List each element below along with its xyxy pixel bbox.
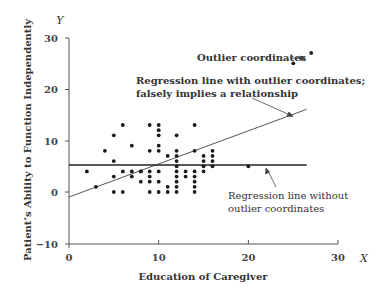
regression-without-outliers-annotation-line1: Regression line without xyxy=(228,190,348,201)
regression-line-with-outliers xyxy=(69,109,307,197)
data-point xyxy=(202,164,206,168)
x-tick-labels: 0 10 20 30 xyxy=(66,252,345,263)
x-tick-0: 0 xyxy=(66,252,73,263)
regression-with-outliers-annotation-line1: Regression line with outlier coordinates… xyxy=(136,75,365,86)
data-point xyxy=(184,175,188,179)
data-point xyxy=(193,180,197,184)
data-point xyxy=(157,133,161,137)
data-point xyxy=(193,149,197,153)
data-point xyxy=(193,170,197,174)
data-point xyxy=(148,175,152,179)
data-point xyxy=(175,175,179,179)
scatter-chart: 30 20 10 0 −10 0 10 20 30 Y X Education … xyxy=(0,0,386,292)
data-point xyxy=(148,190,152,194)
data-point xyxy=(157,128,161,132)
data-point xyxy=(202,154,206,158)
y-tick-10: 10 xyxy=(44,136,58,147)
x-tick-20: 20 xyxy=(241,252,255,263)
data-point xyxy=(157,149,161,153)
data-point xyxy=(112,133,116,137)
data-point xyxy=(175,164,179,168)
data-point xyxy=(139,180,143,184)
data-point xyxy=(202,170,206,174)
data-point xyxy=(211,159,215,163)
data-point xyxy=(148,123,152,127)
data-point xyxy=(175,154,179,158)
data-points xyxy=(85,123,250,194)
data-point xyxy=(175,133,179,137)
data-point xyxy=(193,175,197,179)
y-tick-30: 30 xyxy=(44,33,58,44)
data-point xyxy=(94,185,98,189)
data-point xyxy=(130,170,134,174)
data-point xyxy=(193,185,197,189)
data-point xyxy=(193,123,197,127)
data-point xyxy=(121,190,125,194)
data-point xyxy=(175,170,179,174)
data-point xyxy=(175,149,179,153)
data-point xyxy=(175,185,179,189)
data-point xyxy=(166,185,170,189)
data-point xyxy=(112,159,116,163)
outlier-point xyxy=(309,51,313,55)
data-point xyxy=(202,159,206,163)
x-tick-10: 10 xyxy=(152,252,166,263)
data-point xyxy=(121,123,125,127)
data-point xyxy=(211,154,215,158)
data-point xyxy=(175,159,179,163)
data-point xyxy=(112,175,116,179)
data-point xyxy=(175,190,179,194)
y-tick-labels: 30 20 10 0 −10 xyxy=(36,33,58,250)
data-point xyxy=(157,144,161,148)
regression-with-outliers-annotation-line2: falsely implies a relationship xyxy=(136,88,298,99)
outlier-annotation: Outlier coordinates xyxy=(197,52,307,63)
x-axis xyxy=(69,240,338,248)
x-variable-label: X xyxy=(359,252,369,265)
data-point xyxy=(130,144,134,148)
data-point xyxy=(166,154,170,158)
data-point xyxy=(130,175,134,179)
y-tick-20: 20 xyxy=(44,84,58,95)
data-point xyxy=(157,123,161,127)
data-point xyxy=(139,170,143,174)
regression-without-outliers-annotation-line2: outlier coordinates xyxy=(228,203,324,214)
data-point xyxy=(112,190,116,194)
y-tick-neg10: −10 xyxy=(36,239,58,250)
data-point xyxy=(247,164,251,168)
data-point xyxy=(193,190,197,194)
data-point xyxy=(148,180,152,184)
y-variable-label: Y xyxy=(56,14,65,27)
data-point xyxy=(85,170,89,174)
data-point xyxy=(211,164,215,168)
data-point xyxy=(157,190,161,194)
data-point xyxy=(121,170,125,174)
y-tick-0: 0 xyxy=(51,187,58,198)
data-point xyxy=(175,180,179,184)
data-point xyxy=(148,149,152,153)
x-tick-30: 30 xyxy=(331,252,345,263)
data-point xyxy=(157,180,161,184)
y-axis xyxy=(65,38,69,244)
x-axis-title: Education of Caregiver xyxy=(138,271,268,282)
data-point xyxy=(211,149,215,153)
data-point xyxy=(184,170,188,174)
data-point xyxy=(166,190,170,194)
data-point xyxy=(103,149,107,153)
regression-with-outliers-arrow xyxy=(252,98,293,117)
regression-without-outliers-arrow xyxy=(266,168,277,187)
data-point xyxy=(157,170,161,174)
data-point xyxy=(148,170,152,174)
y-axis-title: Patient’s Ability to Function Independen… xyxy=(22,18,33,261)
